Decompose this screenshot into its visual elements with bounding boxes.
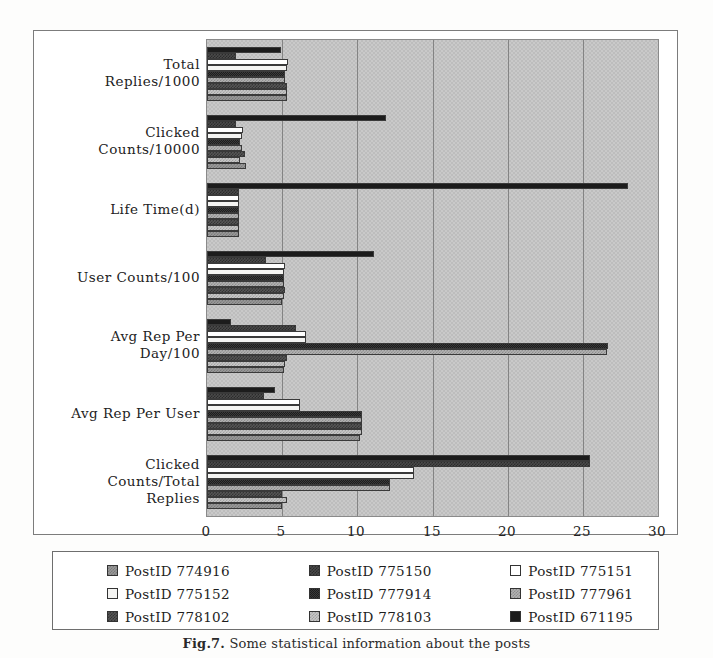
category-label: Life Time(d)	[34, 201, 200, 218]
bar-group	[207, 448, 658, 516]
legend-label: PostID 671195	[528, 609, 633, 625]
bar-group	[207, 176, 658, 244]
x-tick-label: 15	[412, 523, 452, 539]
bar-group	[207, 380, 658, 448]
legend-swatch-icon	[107, 588, 118, 599]
bar-group	[207, 312, 658, 380]
x-axis: 051015202530	[206, 519, 659, 545]
category-label: Avg Rep PerDay/100	[34, 328, 200, 362]
gridline	[658, 40, 659, 516]
figure-caption: Fig.7. Some statistical information abou…	[0, 636, 713, 658]
bar	[207, 299, 282, 305]
bar	[207, 503, 282, 509]
caption-text: Some statistical information about the p…	[229, 636, 530, 651]
bar-group	[207, 108, 658, 176]
legend-label: PostID 775150	[327, 563, 432, 579]
legend-item[interactable]: PostID 775152	[53, 586, 255, 602]
legend-row: PostID 775152PostID 777914PostID 777961	[53, 582, 658, 605]
legend-label: PostID 774916	[125, 563, 230, 579]
legend-swatch-icon	[309, 565, 320, 576]
legend-swatch-icon	[510, 588, 521, 599]
legend-label: PostID 778102	[125, 609, 230, 625]
x-tick-label: 5	[261, 523, 301, 539]
bar	[207, 183, 628, 189]
chart-frame: TotalReplies/1000ClickedCounts/10000Life…	[33, 30, 678, 535]
x-tick-label: 30	[637, 523, 677, 539]
category-label: TotalReplies/1000	[34, 56, 200, 90]
legend-swatch-icon	[510, 611, 521, 622]
legend-label: PostID 775151	[528, 563, 633, 579]
plot-area	[206, 39, 659, 517]
bar	[207, 95, 287, 101]
bar	[207, 367, 284, 373]
bar-group	[207, 40, 658, 108]
legend-item[interactable]: PostID 777914	[255, 586, 457, 602]
x-tick-label: 20	[487, 523, 527, 539]
category-label: Avg Rep Per User	[34, 405, 200, 422]
legend-item[interactable]: PostID 774916	[53, 563, 255, 579]
legend-label: PostID 778103	[327, 609, 432, 625]
bar	[207, 163, 246, 169]
legend-row: PostID 774916PostID 775150PostID 775151	[53, 559, 658, 582]
legend-item[interactable]: PostID 671195	[456, 609, 658, 625]
x-tick-label: 25	[562, 523, 602, 539]
legend-item[interactable]: PostID 777961	[456, 586, 658, 602]
legend-swatch-icon	[510, 565, 521, 576]
bar	[207, 435, 360, 441]
legend-label: PostID 777961	[528, 586, 633, 602]
legend-swatch-icon	[107, 565, 118, 576]
caption-label: Fig.7.	[183, 636, 226, 651]
legend-item[interactable]: PostID 778103	[255, 609, 457, 625]
legend-item[interactable]: PostID 775150	[255, 563, 457, 579]
category-axis-labels: TotalReplies/1000ClickedCounts/10000Life…	[34, 39, 206, 517]
category-label: ClickedCounts/10000	[34, 124, 200, 158]
legend-swatch-icon	[309, 611, 320, 622]
legend-label: PostID 777914	[327, 586, 432, 602]
category-label: ClickedCounts/TotalReplies	[34, 456, 200, 507]
bar-group	[207, 244, 658, 312]
legend-item[interactable]: PostID 778102	[53, 609, 255, 625]
category-label: User Counts/100	[34, 269, 200, 286]
bar	[207, 231, 239, 237]
x-tick-label: 0	[186, 523, 226, 539]
legend-swatch-icon	[107, 611, 118, 622]
figure: TotalReplies/1000ClickedCounts/10000Life…	[0, 0, 713, 658]
legend-swatch-icon	[309, 588, 320, 599]
legend-item[interactable]: PostID 775151	[456, 563, 658, 579]
chart-legend: PostID 774916PostID 775150PostID 775151P…	[52, 551, 659, 630]
legend-row: PostID 778102PostID 778103PostID 671195	[53, 605, 658, 628]
legend-label: PostID 775152	[125, 586, 230, 602]
x-tick-label: 10	[336, 523, 376, 539]
